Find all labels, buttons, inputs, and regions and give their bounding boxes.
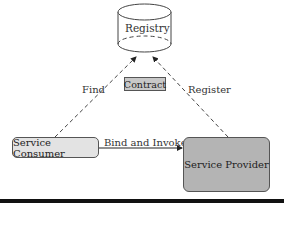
service-consumer-box: Service Consumer: [12, 137, 99, 158]
register-label: Register: [188, 84, 231, 96]
bind-invoke-label: Bind and Invoke: [104, 137, 187, 149]
contract-box: Contract: [124, 77, 166, 91]
find-label: Find: [82, 84, 105, 96]
service-provider-box: Service Provider: [183, 137, 270, 192]
bottom-rule: [0, 199, 284, 203]
registry-label: Registry: [125, 22, 170, 34]
find-edge: [55, 57, 136, 137]
register-edge: [153, 57, 228, 137]
